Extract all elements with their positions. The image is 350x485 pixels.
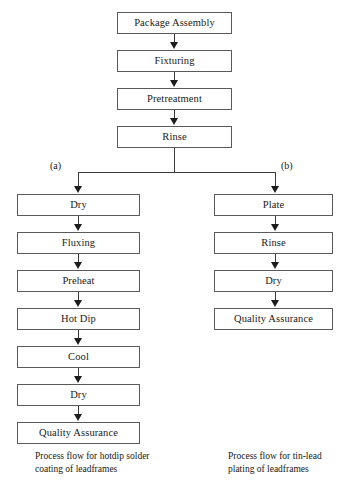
arrow-head-icon — [74, 338, 82, 345]
flowchart-canvas: Package Assembly Fixturing Pretreatment … — [0, 0, 350, 485]
arrow-head-icon — [271, 300, 279, 307]
junction-leg-left — [78, 172, 79, 187]
junction-stem — [174, 148, 175, 173]
process-node-b-plate[interactable]: Plate — [214, 194, 333, 216]
branch-label-a: (a) — [50, 160, 61, 171]
branch-label-b: (b) — [281, 160, 293, 171]
process-node-a-dry[interactable]: Dry — [17, 194, 140, 216]
arrow-head-icon — [74, 224, 82, 231]
arrow-head-icon — [170, 118, 178, 125]
process-node-a-quality-assurance[interactable]: Quality Assurance — [17, 422, 140, 444]
process-node-a-preheat[interactable]: Preheat — [17, 270, 140, 292]
branch-b-caption: Process flow for tin-lead plating of lea… — [228, 450, 348, 475]
arrow-head-icon — [271, 224, 279, 231]
process-node-package-assembly[interactable]: Package Assembly — [117, 12, 232, 34]
process-node-rinse[interactable]: Rinse — [117, 126, 232, 148]
process-node-b-rinse[interactable]: Rinse — [214, 232, 333, 254]
arrow-head-icon — [74, 300, 82, 307]
process-node-a-fluxing[interactable]: Fluxing — [17, 232, 140, 254]
junction-leg-right — [275, 172, 276, 187]
arrow-head-icon-branch-b — [271, 186, 279, 193]
arrow-head-icon — [74, 376, 82, 383]
arrow-head-icon-branch-a — [74, 186, 82, 193]
process-node-fixturing[interactable]: Fixturing — [117, 50, 232, 72]
branch-a-caption: Process flow for hotdip solder coating o… — [35, 450, 195, 475]
arrow-head-icon — [170, 42, 178, 49]
arrow-head-icon — [170, 80, 178, 87]
junction-bar — [78, 172, 276, 173]
process-node-pretreatment[interactable]: Pretreatment — [117, 88, 232, 110]
arrow-head-icon — [74, 414, 82, 421]
process-node-a-dry-2[interactable]: Dry — [17, 384, 140, 406]
arrow-head-icon — [271, 262, 279, 269]
process-node-b-quality-assurance[interactable]: Quality Assurance — [214, 308, 333, 330]
process-node-b-dry[interactable]: Dry — [214, 270, 333, 292]
process-node-a-hot-dip[interactable]: Hot Dip — [17, 308, 140, 330]
arrow-head-icon — [74, 262, 82, 269]
process-node-a-cool[interactable]: Cool — [17, 346, 140, 368]
